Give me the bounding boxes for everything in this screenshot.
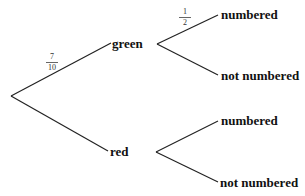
probability-tree-diagram: 7 10 1 2 green red numbered not numbered…	[0, 0, 305, 196]
node-green-numbered: numbered	[221, 8, 278, 21]
probability-green-numbered-denominator: 2	[179, 18, 191, 27]
probability-green-numbered-numerator: 1	[179, 8, 191, 18]
node-green-not-numbered: not numbered	[221, 69, 299, 82]
branch-red-not-numbered	[156, 152, 218, 182]
probability-green-denominator: 10	[46, 63, 58, 72]
probability-green: 7 10	[46, 53, 58, 72]
tree-branches	[0, 0, 305, 196]
node-red: red	[110, 145, 129, 158]
node-red-not-numbered: not numbered	[220, 176, 298, 189]
node-green: green	[112, 37, 143, 50]
branch-red-numbered	[156, 121, 218, 152]
branch-root-green	[11, 43, 111, 96]
probability-green-numerator: 7	[46, 53, 58, 63]
node-red-numbered: numbered	[221, 114, 278, 127]
branch-root-red	[11, 96, 108, 151]
probability-green-numbered: 1 2	[179, 8, 191, 27]
branch-green-not-numbered	[157, 44, 218, 75]
